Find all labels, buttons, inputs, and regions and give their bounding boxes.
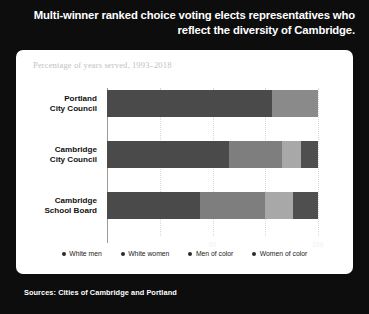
- plot-area: PortlandCity CouncilCambridgeCity Counci…: [107, 88, 318, 236]
- chart-subtitle: Percentage of years served, 1993–2018: [33, 60, 172, 70]
- bar-row-label: CambridgeCity Council: [19, 144, 107, 164]
- bar-row-label-line: Cambridge: [19, 195, 97, 205]
- legend-label: Men of color: [196, 250, 233, 257]
- bar-row-label-line: City Council: [19, 104, 97, 114]
- bar-segment: [272, 90, 318, 117]
- bar-row-label-line: Cambridge: [19, 144, 97, 154]
- bar-row-label: CambridgeSchool Board: [19, 195, 107, 215]
- bar-row: CambridgeSchool Board: [107, 192, 318, 219]
- legend-item[interactable]: Men of color: [188, 250, 233, 257]
- legend-item[interactable]: Women of color: [252, 250, 307, 257]
- legend-item[interactable]: White men: [62, 250, 102, 257]
- title-block: Multi-winner ranked choice voting elects…: [14, 8, 355, 38]
- bar-row: PortlandCity Council: [107, 90, 318, 117]
- chart-card: Percentage of years served, 1993–2018 Po…: [16, 50, 353, 274]
- infographic-frame: Multi-winner ranked choice voting elects…: [0, 0, 369, 314]
- bar-row-label-line: Portland: [19, 93, 97, 103]
- bar-segment: [293, 192, 318, 219]
- x-tick-label: 100: [312, 241, 323, 248]
- bar-segment: [265, 192, 292, 219]
- legend-dot-icon: [62, 252, 66, 256]
- bar-row: CambridgeCity Council: [107, 141, 318, 168]
- legend-dot-icon: [188, 252, 192, 256]
- legend-dot-icon: [121, 252, 125, 256]
- bar-row-label-line: City Council: [19, 155, 97, 165]
- bar-segment: [229, 141, 282, 168]
- bar-segment: [107, 141, 229, 168]
- source-note: Sources: Cities of Cambridge and Portlan…: [24, 288, 177, 297]
- legend-dot-icon: [252, 252, 256, 256]
- legend-label: Women of color: [260, 250, 307, 257]
- bar-row-label: PortlandCity Council: [19, 93, 107, 113]
- x-tick-label: 50: [209, 241, 217, 248]
- bar-segment: [107, 192, 200, 219]
- bar-segment: [301, 141, 318, 168]
- bar-segment: [282, 141, 301, 168]
- legend-item[interactable]: White women: [121, 250, 170, 257]
- chart-legend: White menWhite womenMen of colorWomen of…: [16, 250, 353, 257]
- bar-row-label-line: School Board: [19, 206, 97, 216]
- gridline-100: [318, 88, 319, 236]
- bar-segment: [107, 90, 272, 117]
- legend-label: White men: [69, 250, 101, 257]
- bar-segment: [200, 192, 265, 219]
- legend-label: White women: [128, 250, 169, 257]
- page-title: Multi-winner ranked choice voting elects…: [14, 8, 355, 38]
